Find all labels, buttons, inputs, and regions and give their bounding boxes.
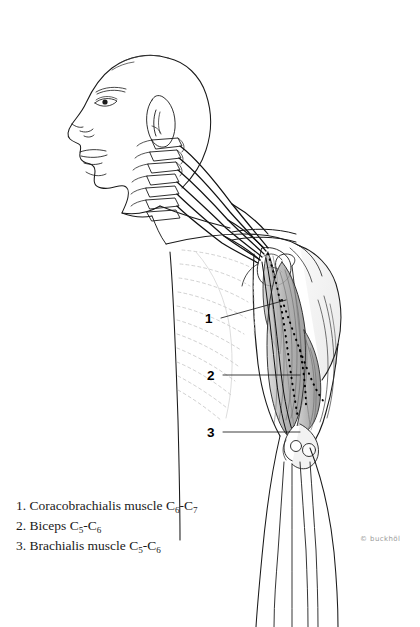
eye [95, 96, 117, 106]
legend: 1. Coracobrachialis muscle C6-C7 2. Bice… [16, 498, 198, 558]
legend-item-1: 1. Coracobrachialis muscle C6-C7 [16, 498, 198, 518]
legend-item-2-number: 2. [16, 518, 26, 533]
callout-number-1: 1 [205, 311, 213, 326]
eyebrow [96, 87, 126, 94]
legend-item-2-root-to: C [88, 518, 97, 533]
legend-item-3-root-from-sub: 5 [138, 545, 143, 555]
legend-item-2-root-from: C [70, 518, 79, 533]
copyright-text: buckhöl [370, 535, 400, 543]
chin [86, 172, 106, 176]
callout-number-3: 3 [207, 425, 215, 440]
cervical-vertebrae [131, 138, 184, 221]
callout-number-2: 2 [207, 368, 215, 383]
nose [72, 124, 94, 137]
legend-item-2: 2. Biceps C5-C6 [16, 518, 198, 538]
legend-item-3: 3. Brachialis muscle C5-C6 [16, 538, 198, 558]
legend-item-1-number: 1. [16, 498, 26, 513]
chest-contour [196, 252, 232, 418]
anatomy-figure: 1 2 3 1. Coracobrachialis muscle C6-C7 2… [0, 0, 420, 627]
legend-item-3-root-to: C [147, 538, 156, 553]
legend-item-3-root-from: C [129, 538, 138, 553]
legend-item-1-root-from-sub: 6 [175, 505, 180, 515]
legend-item-1-root-to: C [184, 498, 193, 513]
legend-item-3-root-to-sub: 6 [156, 545, 161, 555]
legend-item-1-name: Coracobrachialis muscle [30, 498, 163, 513]
legend-item-1-root-from: C [166, 498, 175, 513]
legend-item-3-name: Brachialis muscle [30, 538, 126, 553]
scalp-contour [112, 55, 160, 70]
ulna [274, 462, 292, 627]
copyright-symbol: © [360, 535, 367, 543]
legend-item-1-root-to-sub: 7 [193, 505, 198, 515]
legend-item-2-root-from-sub: 5 [79, 525, 84, 535]
legend-item-2-root-to-sub: 6 [97, 525, 102, 535]
legend-item-2-name: Biceps [30, 518, 67, 533]
copyright-credit: © buckhöl [360, 535, 400, 543]
legend-item-3-number: 3. [16, 538, 26, 553]
ribcage [177, 250, 252, 421]
brachial-plexus [177, 146, 268, 263]
radius [300, 462, 318, 627]
